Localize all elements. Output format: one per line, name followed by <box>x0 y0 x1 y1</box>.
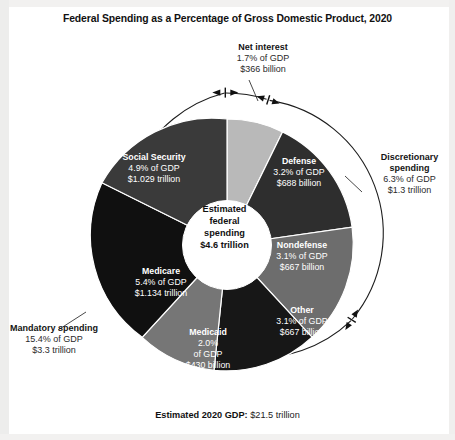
slice-label-medicaid-percent-suffix: of GDP <box>160 349 256 360</box>
center-label-line3: spending <box>166 228 283 240</box>
slice-label-social-security-percent: 4.9% of GDP <box>100 163 208 174</box>
slice-label-medicare-amount: $1.134 trillion <box>109 288 213 299</box>
slice-label-social-security-amount: $1.029 trillion <box>100 174 208 185</box>
slice-label-defense-title: Defense <box>249 156 349 167</box>
callout-discretionary-spending: Discretionary spending 6.3% of GDP $1.3 … <box>364 152 455 196</box>
slice-label-medicaid: Medicaid 2.0% of GDP $430 billion <box>160 327 256 371</box>
callout-discretionary-percent: 6.3% of GDP <box>364 174 455 185</box>
center-label-line1: Estimated <box>166 204 283 216</box>
chart-footnote: Estimated 2020 GDP: $21.5 trillion <box>0 410 455 420</box>
slice-label-other-amount: $667 billion <box>252 327 352 338</box>
arc-marker-top-left <box>212 88 238 98</box>
slice-label-medicaid-amount: $430 billion <box>160 360 256 371</box>
slice-label-social-security: Social Security 4.9% of GDP $1.029 trill… <box>100 152 208 185</box>
callout-net-interest-percent: 1.7% of GDP <box>193 53 333 64</box>
slice-label-social-security-title: Social Security <box>100 152 208 163</box>
callout-net-interest: Net interest 1.7% of GDP $366 billion <box>193 42 333 75</box>
callout-net-interest-title: Net interest <box>193 42 333 53</box>
callout-mandatory-spending: Mandatory spending 15.4% of GDP $3.3 tri… <box>2 323 106 356</box>
slice-label-medicaid-percent: 2.0% <box>160 338 256 349</box>
slice-label-medicaid-title: Medicaid <box>160 327 256 338</box>
callout-mandatory-amount: $3.3 trillion <box>2 345 106 356</box>
center-label-line2: federal <box>166 216 283 228</box>
callout-discretionary-amount: $1.3 trillion <box>364 185 455 196</box>
center-label-total: $4.6 trillion <box>166 240 283 252</box>
slice-label-other: Other 3.1% of GDP $667 billion <box>252 305 352 338</box>
callout-mandatory-title: Mandatory spending <box>2 323 106 334</box>
slice-label-medicare-percent: 5.4% of GDP <box>109 277 213 288</box>
pie-center-label: Estimated federal spending $4.6 trillion <box>166 204 283 252</box>
slice-label-other-title: Other <box>252 305 352 316</box>
slice-label-nondefense-amount: $667 billion <box>250 262 354 273</box>
slice-label-defense-percent: 3.2% of GDP <box>249 167 349 178</box>
slice-label-medicare-title: Medicare <box>109 266 213 277</box>
callout-discretionary-title: Discretionary spending <box>364 152 455 174</box>
slice-label-other-percent: 3.1% of GDP <box>252 316 352 327</box>
leader-line-net-interest <box>249 80 258 101</box>
footnote-value: $21.5 trillion <box>250 410 300 420</box>
slice-label-defense: Defense 3.2% of GDP $688 billion <box>249 156 349 189</box>
footnote-label: Estimated 2020 GDP: <box>155 410 247 420</box>
callout-net-interest-amount: $366 billion <box>193 64 333 75</box>
callout-mandatory-percent: 15.4% of GDP <box>2 334 106 345</box>
slice-label-medicare: Medicare 5.4% of GDP $1.134 trillion <box>109 266 213 299</box>
slice-label-nondefense-percent: 3.1% of GDP <box>250 251 354 262</box>
arc-marker-top-right <box>255 92 281 109</box>
slice-label-defense-amount: $688 billion <box>249 178 349 189</box>
